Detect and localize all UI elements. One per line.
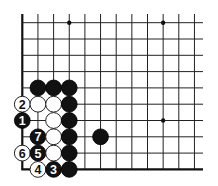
stone-black xyxy=(30,80,46,96)
star-point xyxy=(161,118,165,122)
stone-move-2: 2 xyxy=(14,96,30,112)
white-stone-icon xyxy=(46,145,62,161)
black-stone-icon xyxy=(61,113,77,129)
move-number: 2 xyxy=(19,98,26,112)
stone-white xyxy=(46,96,62,112)
move-number: 6 xyxy=(19,147,26,161)
star-point xyxy=(161,21,165,25)
stone-white xyxy=(30,96,46,112)
black-stone-icon xyxy=(61,80,77,96)
white-stone-icon xyxy=(46,113,62,129)
move-number: 5 xyxy=(34,147,41,161)
white-stone-icon xyxy=(30,96,46,112)
move-number: 1 xyxy=(19,114,26,128)
go-board: 2176543 xyxy=(0,0,218,186)
black-stone-icon xyxy=(61,162,77,178)
move-number: 4 xyxy=(34,163,41,177)
stone-move-6: 6 xyxy=(14,145,30,161)
black-stone-icon xyxy=(30,80,46,96)
stone-white xyxy=(46,145,62,161)
stones: 2176543 xyxy=(14,80,108,177)
stone-move-7: 7 xyxy=(30,129,46,145)
stone-black xyxy=(61,129,77,145)
black-stone-icon xyxy=(61,145,77,161)
move-number: 3 xyxy=(50,163,57,177)
black-stone-icon xyxy=(46,80,62,96)
stone-white xyxy=(46,113,62,129)
stone-black xyxy=(61,145,77,161)
stone-black xyxy=(61,162,77,178)
stone-black xyxy=(61,96,77,112)
star-point xyxy=(67,21,71,25)
move-number: 7 xyxy=(34,130,41,144)
stone-move-1: 1 xyxy=(14,113,30,129)
stone-black xyxy=(93,129,109,145)
black-stone-icon xyxy=(61,96,77,112)
stone-black xyxy=(46,80,62,96)
stone-black xyxy=(61,80,77,96)
white-stone-icon xyxy=(46,96,62,112)
stone-white xyxy=(46,129,62,145)
black-stone-icon xyxy=(93,129,109,145)
black-stone-icon xyxy=(61,129,77,145)
stone-move-4: 4 xyxy=(30,162,46,178)
white-stone-icon xyxy=(46,129,62,145)
stone-move-3: 3 xyxy=(46,162,62,178)
stone-black xyxy=(61,113,77,129)
stone-move-5: 5 xyxy=(30,145,46,161)
